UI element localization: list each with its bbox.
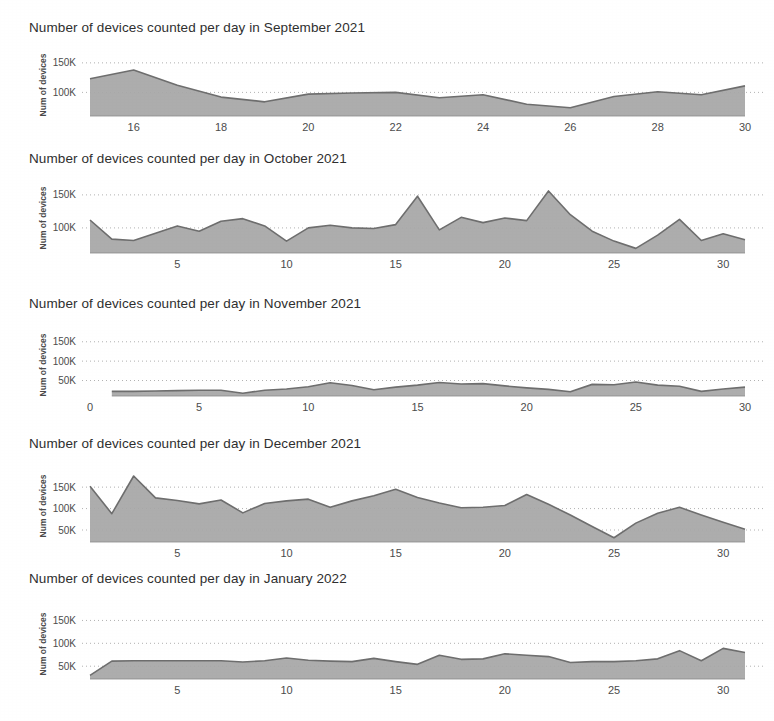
x-tick-label: 10: [280, 547, 292, 559]
chart-title-december-2021: Number of devices counted per day in Dec…: [0, 430, 774, 452]
y-axis-label-september-2021: Num of devices: [38, 53, 48, 116]
x-tick-label: 15: [390, 684, 402, 696]
plot-area-september-2021: Num of devices100K150K1618202224262830: [0, 36, 774, 138]
x-tick-label: 22: [390, 121, 402, 133]
chart-title-october-2021: Number of devices counted per day in Oct…: [0, 145, 774, 167]
x-tick-label: 25: [608, 258, 620, 270]
y-axis-label-november-2021: Num of devices: [38, 333, 48, 396]
x-tick-label: 5: [196, 401, 202, 413]
x-tick-label: 30: [717, 258, 729, 270]
y-tick-label: 150K: [53, 615, 77, 626]
x-tick-label: 20: [499, 684, 511, 696]
x-tick-label: 15: [390, 258, 402, 270]
x-tick-label: 28: [652, 121, 664, 133]
y-tick-label: 100K: [53, 87, 77, 98]
y-axis-label-october-2021: Num of devices: [38, 186, 48, 249]
plot-area-november-2021: Num of devices50K100K150K051015202530: [0, 312, 774, 418]
y-axis-label-december-2021: Num of devices: [38, 474, 48, 537]
chart-panel-october-2021: Number of devices counted per day in Oct…: [0, 145, 774, 290]
area-series-october-2021: [90, 191, 745, 253]
y-tick-label: 50K: [58, 525, 76, 536]
x-tick-label: 20: [521, 401, 533, 413]
x-tick-label: 24: [477, 121, 489, 133]
chart-panel-september-2021: Number of devices counted per day in Sep…: [0, 0, 774, 145]
y-tick-label: 150K: [53, 57, 77, 68]
y-tick-label: 150K: [53, 189, 77, 200]
x-tick-label: 10: [280, 684, 292, 696]
x-tick-label: 0: [87, 401, 93, 413]
plot-area-december-2021: Num of devices50K100K150K51015202530: [0, 452, 774, 564]
x-tick-label: 16: [128, 121, 140, 133]
chart-title-january-2022: Number of devices counted per day in Jan…: [0, 565, 774, 587]
y-tick-label: 150K: [53, 482, 77, 493]
x-tick-label: 20: [302, 121, 314, 133]
x-tick-label: 18: [215, 121, 227, 133]
chart-panel-december-2021: Number of devices counted per day in Dec…: [0, 430, 774, 565]
x-tick-label: 30: [739, 121, 751, 133]
x-tick-label: 5: [174, 258, 180, 270]
x-tick-label: 5: [174, 684, 180, 696]
chart-panel-november-2021: Number of devices counted per day in Nov…: [0, 290, 774, 430]
x-tick-label: 30: [739, 401, 751, 413]
y-tick-label: 100K: [53, 503, 77, 514]
x-tick-label: 15: [411, 401, 423, 413]
chart-panel-january-2022: Number of devices counted per day in Jan…: [0, 565, 774, 721]
y-tick-label: 150K: [53, 336, 77, 347]
chart-title-september-2021: Number of devices counted per day in Sep…: [0, 0, 774, 36]
y-tick-label: 100K: [53, 638, 77, 649]
x-tick-label: 10: [280, 258, 292, 270]
x-tick-label: 30: [717, 547, 729, 559]
x-tick-label: 15: [390, 547, 402, 559]
y-tick-label: 100K: [53, 222, 77, 233]
chart-title-november-2021: Number of devices counted per day in Nov…: [0, 290, 774, 312]
y-tick-label: 50K: [58, 661, 76, 672]
plot-area-october-2021: Num of devices100K150K51015202530: [0, 167, 774, 275]
plot-area-january-2022: Num of devices50K100K150K51015202530: [0, 587, 774, 701]
y-axis-label-january-2022: Num of devices: [38, 612, 48, 675]
x-tick-label: 25: [630, 401, 642, 413]
x-tick-label: 20: [499, 547, 511, 559]
x-tick-label: 5: [174, 547, 180, 559]
y-tick-label: 100K: [53, 356, 77, 367]
charts-page: Number of devices counted per day in Sep…: [0, 0, 774, 721]
x-tick-label: 20: [499, 258, 511, 270]
x-tick-label: 30: [717, 684, 729, 696]
y-tick-label: 50K: [58, 375, 76, 386]
x-tick-label: 26: [564, 121, 576, 133]
x-tick-label: 10: [302, 401, 314, 413]
x-tick-label: 25: [608, 547, 620, 559]
x-tick-label: 25: [608, 684, 620, 696]
